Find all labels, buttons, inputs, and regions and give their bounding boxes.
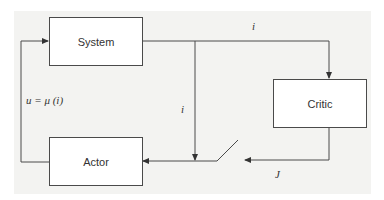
switch	[217, 140, 238, 161]
arrow-critic-output	[245, 127, 329, 160]
signal-label-state-top: i	[252, 20, 255, 32]
signal-label-critic-output: J	[275, 168, 280, 180]
actor-block: Actor	[49, 137, 143, 186]
critic-label: Critic	[307, 98, 332, 110]
arrow-system-to-critic	[142, 41, 329, 78]
critic-block: Critic	[273, 79, 367, 128]
system-label: System	[78, 36, 115, 48]
signal-label-control: u = μ (i)	[26, 94, 63, 106]
actor-label: Actor	[83, 156, 109, 168]
signal-label-state-middle: i	[181, 103, 184, 115]
system-block: System	[49, 17, 143, 66]
